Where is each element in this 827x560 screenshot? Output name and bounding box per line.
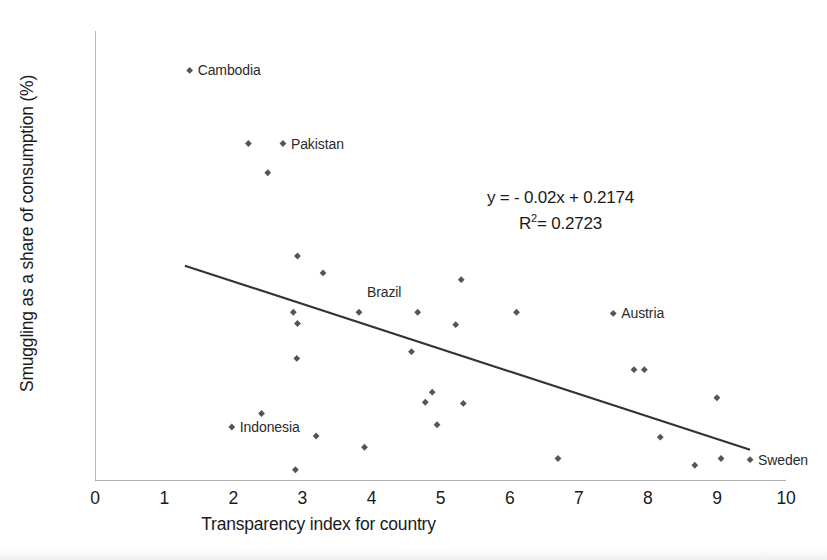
data-point-marker [294,320,301,327]
data-point-marker [631,366,638,373]
data-point-marker [186,67,193,74]
r-squared-symbol: R [519,213,531,232]
x-tick-label: 4 [351,488,391,509]
data-point-marker [228,424,235,431]
data-point-marker [434,421,441,428]
data-point-marker [513,309,520,316]
x-tick-label: 10 [766,488,806,509]
r-squared-value: = 0.2723 [537,213,602,232]
scan-artifact-band [0,548,827,560]
chart-page: Smuggling as a share of consumption (%) … [0,0,827,560]
data-point-marker [714,394,721,401]
data-point-marker [361,444,368,451]
point-label: Sweden [758,452,808,468]
point-label: Pakistan [291,136,344,152]
scatter-plot-svg [95,31,786,481]
regression-annotation: y = - 0.02x + 0.2174 R2= 0.2723 [433,186,688,236]
data-point-marker [429,389,436,396]
plot-area: 0.000.050.100.150.200.250.300.350.40 012… [95,31,786,481]
x-tick-label: 2 [213,488,253,509]
x-tick-label: 7 [559,488,599,509]
data-point-marker [555,455,562,462]
x-tick-label: 5 [421,488,461,509]
data-point-marker [290,309,297,316]
regression-equation: y = - 0.02x + 0.2174 [433,186,688,211]
data-point-marker [264,169,271,176]
x-tick-label: 8 [628,488,668,509]
x-tick-label: 9 [697,488,737,509]
data-point-marker [458,276,465,283]
data-point-marker [452,321,459,328]
data-point-marker [422,399,429,406]
data-point-marker [356,309,363,316]
x-tick-label: 1 [144,488,184,509]
data-point-marker [320,269,327,276]
y-axis-title: Smuggling as a share of consumption (%) [17,8,38,460]
data-point-marker [408,348,415,355]
data-point-marker [691,462,698,469]
r-squared-line: R2= 0.2723 [433,211,688,236]
data-point-marker [313,433,320,440]
data-point-marker [245,140,252,147]
x-tick-label: 3 [282,488,322,509]
x-axis-title: Transparency index for country [0,514,732,535]
data-point-marker [280,140,287,147]
data-point-marker [460,400,467,407]
point-label: Brazil [367,284,401,300]
data-point-marker [610,310,617,317]
point-label: Austria [621,305,664,321]
data-point-marker [293,355,300,362]
data-point-marker [747,456,754,463]
data-point-marker [414,309,421,316]
data-point-marker [292,466,299,473]
axes-group [95,31,786,481]
data-point-marker [294,253,301,260]
x-tick-label: 6 [490,488,530,509]
point-label: Indonesia [240,419,300,435]
point-label: Cambodia [198,62,261,78]
data-point-marker [657,434,664,441]
data-points-group [186,67,753,473]
data-point-marker [641,366,648,373]
x-tick-label: 0 [75,488,115,509]
data-point-marker [718,455,725,462]
data-point-marker [258,410,265,417]
